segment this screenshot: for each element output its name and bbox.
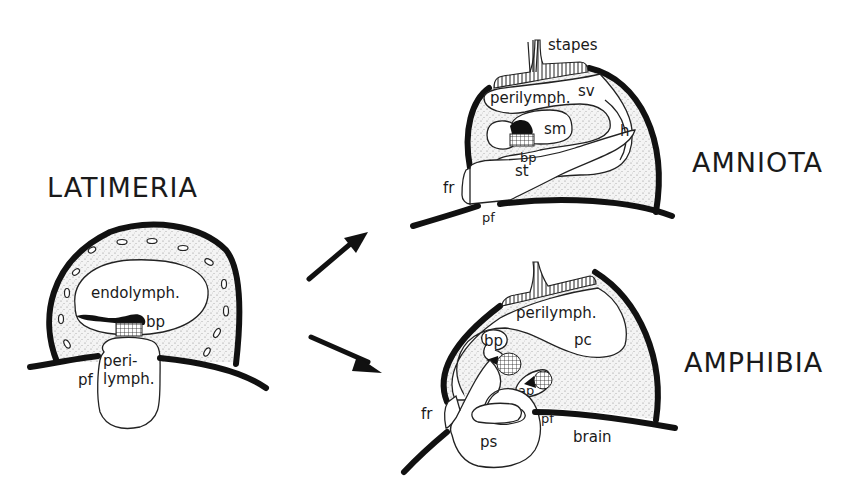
amphibia-label-ps: ps <box>480 433 498 451</box>
amniota-fenestra-rotunda <box>462 168 470 204</box>
arrow-to-amphibia-head <box>352 356 382 373</box>
latimeria-title: LATIMERIA <box>47 172 198 203</box>
amniota-label-st: st <box>515 162 529 180</box>
amphibia-ap-sensory <box>534 371 552 389</box>
amphibia-panel: AMPHIBIA bp ap perilymph. p <box>404 262 823 472</box>
amniota-basilar-papilla <box>510 134 534 146</box>
latimeria-label-peri: peri- <box>103 352 138 370</box>
latimeria-label-pf: pf <box>78 371 94 389</box>
amniota-label-h: h <box>620 122 630 140</box>
amphibia-bp-sensory <box>497 353 521 375</box>
amphibia-label-pc: pc <box>574 331 592 349</box>
amphibia-label-bp: bp <box>484 332 503 350</box>
amniota-label-sv: sv <box>578 82 595 100</box>
latimeria-panel: LATIMERIA endolymph. <box>30 172 266 428</box>
amniota-label-perilymph: perilymph. <box>490 89 571 107</box>
latimeria-basilar-papilla <box>116 323 142 336</box>
arrow-to-amniota-head <box>344 232 368 253</box>
latimeria-label-endolymph: endolymph. <box>91 284 180 302</box>
evolution-arrows <box>309 232 382 373</box>
amphibia-perilymph-duct-inner <box>472 403 521 423</box>
amniota-label-pf: pf <box>482 210 495 225</box>
latimeria-label-bp: bp <box>146 313 165 331</box>
amniota-title: AMNIOTA <box>692 147 823 178</box>
amniota-label-fr: fr <box>443 179 455 197</box>
amphibia-label-fr: fr <box>421 405 433 423</box>
latimeria-label-lymph: lymph. <box>103 370 154 388</box>
amphibia-label-brain: brain <box>573 428 612 446</box>
amphibia-title: AMPHIBIA <box>684 347 823 378</box>
amniota-label-sm: sm <box>544 120 566 138</box>
amniota-panel: AMNIOTA stapes perilymph. sv sm h bp st <box>413 36 823 226</box>
amphibia-label-perilymph: perilymph. <box>516 304 597 322</box>
amphibia-skull-floor-left <box>404 432 447 472</box>
arrow-to-amniota <box>309 240 355 279</box>
inner-ear-evolution-diagram: LATIMERIA endolymph. <box>0 0 863 502</box>
amniota-skull-floor <box>413 200 672 226</box>
amniota-label-stapes: stapes <box>548 36 598 54</box>
amphibia-label-pf: pf <box>541 411 554 426</box>
